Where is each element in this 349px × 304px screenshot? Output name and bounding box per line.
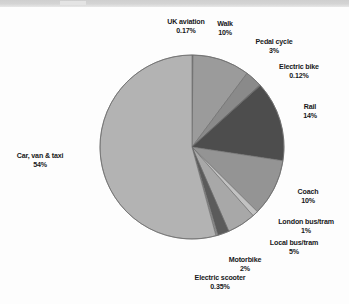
pie-label-rail: Rail 14%	[293, 103, 327, 120]
pie-label-car-van-taxi-value: 54%	[4, 161, 76, 170]
pie-label-motorbike-value: 2%	[218, 265, 272, 274]
pie-label-car-van-taxi-name: Car, van & taxi	[4, 152, 76, 161]
pie-label-coach-value: 10%	[288, 197, 328, 206]
pie-label-motorbike: Motorbike 2%	[218, 256, 272, 273]
pie-label-pedal-cycle-value: 3%	[243, 47, 305, 56]
pie-label-walk-value: 10%	[202, 29, 248, 38]
pie-label-car-van-taxi: Car, van & taxi 54%	[4, 152, 76, 169]
pie-label-electric-bike: Electric bike 0.12%	[266, 63, 332, 80]
pie-label-walk-name: Walk	[202, 20, 248, 29]
pie-label-local-bus-tram: Local bus/tram 5%	[259, 239, 329, 256]
pie-label-pedal-cycle-name: Pedal cycle	[243, 38, 305, 47]
pie-label-coach-name: Coach	[288, 188, 328, 197]
pie-label-pedal-cycle: Pedal cycle 3%	[243, 38, 305, 55]
pie-label-electric-scooter: Electric scooter 0.35%	[180, 274, 260, 291]
pie-label-electric-scooter-value: 0.35%	[180, 283, 260, 292]
pie-label-rail-value: 14%	[293, 112, 327, 121]
pie-label-local-bus-tram-name: Local bus/tram	[259, 239, 329, 248]
pie-label-electric-bike-name: Electric bike	[266, 63, 332, 72]
pie-label-london-bus-tram-name: London bus/tram	[267, 218, 345, 227]
pie-label-electric-bike-value: 0.12%	[266, 72, 332, 81]
pie-label-motorbike-name: Motorbike	[218, 256, 272, 265]
pie-label-walk: Walk 10%	[202, 20, 248, 37]
pie-chart-figure: UK aviation 0.17% Walk 10% Pedal cycle 3…	[0, 0, 349, 304]
pie-label-london-bus-tram: London bus/tram 1%	[267, 218, 345, 235]
pie-label-london-bus-tram-value: 1%	[267, 227, 345, 236]
pie-label-local-bus-tram-value: 5%	[259, 248, 329, 257]
pie-label-coach: Coach 10%	[288, 188, 328, 205]
pie-slice-group	[100, 55, 284, 239]
pie-label-electric-scooter-name: Electric scooter	[180, 274, 260, 283]
pie-label-rail-name: Rail	[293, 103, 327, 112]
